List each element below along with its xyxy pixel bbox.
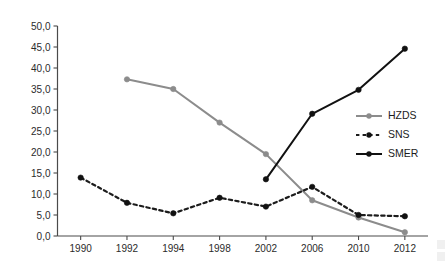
series-line-smer [266,49,405,180]
x-tick-labels: 19901992199419982002200620102012 [70,243,417,254]
data-point-sns [356,212,361,217]
y-tick-label: 45,0 [31,42,51,53]
x-tick-label: 2006 [301,243,324,254]
data-point-smer [356,87,361,92]
y-tick-label: 10,0 [31,189,51,200]
data-point-hzds [124,77,129,82]
legend-swatch-marker [366,151,371,156]
legend-label-sns: SNS [388,128,410,140]
y-tick-label: 20,0 [31,147,51,158]
y-tick-label: 5,0 [37,210,51,221]
data-point-hzds [263,151,268,156]
legend-item-smer[interactable]: SMER [356,147,419,159]
legend-item-hzds[interactable]: HZDS [356,109,417,121]
data-point-sns [263,204,268,209]
legend-swatch-marker [366,113,371,118]
data-point-hzds [310,198,315,203]
legend-label-hzds: HZDS [388,109,417,121]
series-line-sns [81,178,405,217]
legend-label-smer: SMER [388,147,419,159]
y-tick-label: 25,0 [31,126,51,137]
data-point-hzds [402,230,407,235]
x-tick-label: 1994 [162,243,185,254]
y-tick-label: 50,0 [31,21,51,32]
data-point-sns [78,175,83,180]
y-tick-label: 15,0 [31,168,51,179]
y-tick-label: 35,0 [31,84,51,95]
chart-legend: HZDSSNSSMER [356,109,419,159]
legend-swatch-marker [366,132,371,137]
y-tick-label: 40,0 [31,63,51,74]
x-tick-label: 2002 [255,243,278,254]
y-axis-group: 0,05,010,015,020,025,030,035,040,045,050… [31,21,57,242]
data-point-hzds [171,86,176,91]
y-tick-label: 30,0 [31,105,51,116]
data-point-sns [402,214,407,219]
watermark-artifact [437,240,445,249]
line-chart: 0,05,010,015,020,025,030,035,040,045,050… [0,0,447,262]
data-point-smer [263,177,268,182]
y-tick-label: 0,0 [37,231,51,242]
x-tick-label: 2010 [347,243,370,254]
data-point-sns [310,184,315,189]
x-tick-label: 1992 [116,243,139,254]
data-point-sns [124,200,129,205]
series-smer [263,46,407,182]
legend-item-sns[interactable]: SNS [356,128,410,140]
chart-canvas: 0,05,010,015,020,025,030,035,040,045,050… [0,0,447,262]
x-tick-label: 1998 [208,243,231,254]
data-point-sns [217,195,222,200]
x-axis-group: 19901992199419982002200620102012 [58,236,429,254]
data-point-smer [310,111,315,116]
data-point-smer [402,46,407,51]
x-tick-label: 1990 [70,243,93,254]
y-tick-labels: 0,05,010,015,020,025,030,035,040,045,050… [31,21,51,242]
series-layer [78,46,408,235]
x-tick-marks [81,236,405,240]
watermark-artifact-2 [437,252,445,261]
x-tick-label: 2012 [394,243,417,254]
data-point-sns [171,211,176,216]
data-point-hzds [217,120,222,125]
series-sns [78,175,408,219]
